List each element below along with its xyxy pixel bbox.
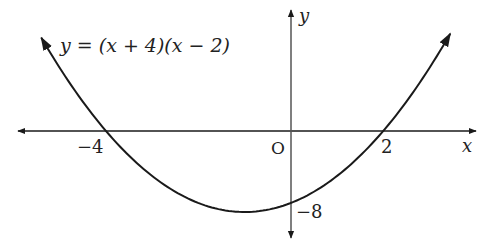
tick-label-neg4: −4 xyxy=(77,136,104,157)
parabola-graph: y = (x + 4)(x − 2) y x O −4 2 −8 xyxy=(0,0,487,246)
y-axis-label: y xyxy=(298,5,310,26)
x-axis-label: x xyxy=(462,135,472,156)
origin-label: O xyxy=(271,138,285,158)
equation-label: y = (x + 4)(x − 2) xyxy=(59,34,230,56)
tick-label-2: 2 xyxy=(381,136,392,157)
parabola-curve xyxy=(41,34,450,212)
tick-label-neg8: −8 xyxy=(296,201,323,222)
